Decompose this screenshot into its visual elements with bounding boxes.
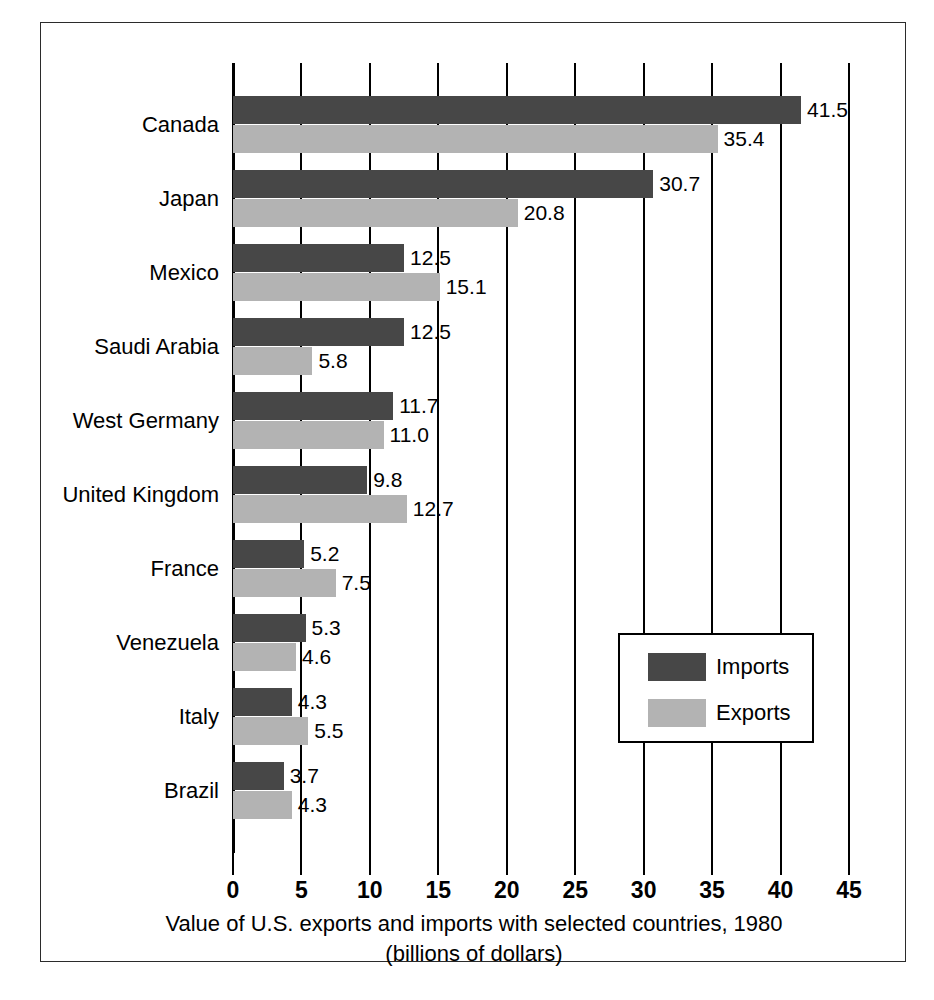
x-tick-label-15: 15 xyxy=(426,877,452,904)
bar-exports xyxy=(233,199,518,227)
bar-value-label: 4.3 xyxy=(292,688,327,716)
category-label-france: France xyxy=(151,540,219,597)
category-label-venezuela: Venezuela xyxy=(116,614,219,671)
x-tick-10 xyxy=(369,853,371,875)
bar-group: 11.711.0 xyxy=(233,392,849,449)
x-tick-label-45: 45 xyxy=(836,877,862,904)
bar-imports xyxy=(233,244,404,272)
bar-value-label: 11.0 xyxy=(384,421,429,449)
bar-imports xyxy=(233,466,367,494)
x-tick-5 xyxy=(300,853,302,875)
bar-imports xyxy=(233,614,306,642)
x-tick-20 xyxy=(506,853,508,875)
x-tick-label-30: 30 xyxy=(631,877,657,904)
caption-line-1: Value of U.S. exports and imports with s… xyxy=(41,909,907,939)
bar-group: 3.74.3 xyxy=(233,762,849,819)
x-tick-label-0: 0 xyxy=(227,877,240,904)
category-label-japan: Japan xyxy=(159,170,219,227)
x-tick-40 xyxy=(780,853,782,875)
legend-label-imports: Imports xyxy=(716,651,789,683)
bar-imports xyxy=(233,392,393,420)
legend-swatch-imports xyxy=(648,653,706,681)
x-tick-15 xyxy=(437,853,439,875)
x-tick-label-5: 5 xyxy=(295,877,308,904)
bar-value-label: 5.5 xyxy=(308,717,343,745)
chart-legend: ImportsExports xyxy=(618,633,814,743)
bar-value-label: 9.8 xyxy=(367,466,402,494)
bar-value-label: 3.7 xyxy=(284,762,319,790)
bar-exports xyxy=(233,273,440,301)
figure-frame: CanadaJapanMexicoSaudi ArabiaWest German… xyxy=(40,22,906,962)
category-label-brazil: Brazil xyxy=(164,762,219,819)
x-tick-35 xyxy=(711,853,713,875)
chart-caption: Value of U.S. exports and imports with s… xyxy=(41,909,907,969)
bar-imports xyxy=(233,540,304,568)
bar-value-label: 4.3 xyxy=(292,791,327,819)
bar-value-label: 12.5 xyxy=(404,318,451,346)
bar-group: 5.27.5 xyxy=(233,540,849,597)
bar-value-label: 7.5 xyxy=(336,569,371,597)
x-tick-label-40: 40 xyxy=(768,877,794,904)
bar-value-label: 5.2 xyxy=(304,540,339,568)
bar-exports xyxy=(233,495,407,523)
category-label-united-kingdom: United Kingdom xyxy=(62,466,219,523)
x-tick-label-10: 10 xyxy=(357,877,383,904)
category-label-saudi-arabia: Saudi Arabia xyxy=(94,318,219,375)
bar-group: 12.515.1 xyxy=(233,244,849,301)
bar-group: 30.720.8 xyxy=(233,170,849,227)
x-tick-30 xyxy=(643,853,645,875)
bar-exports xyxy=(233,347,312,375)
bar-exports xyxy=(233,569,336,597)
x-tick-label-20: 20 xyxy=(494,877,520,904)
bar-value-label: 41.5 xyxy=(801,96,848,124)
legend-swatch-exports xyxy=(648,699,706,727)
bar-group: 12.55.8 xyxy=(233,318,849,375)
x-tick-45 xyxy=(848,853,850,875)
bar-imports xyxy=(233,762,284,790)
bar-group: 9.812.7 xyxy=(233,466,849,523)
legend-label-exports: Exports xyxy=(716,697,791,729)
bar-value-label: 20.8 xyxy=(518,199,565,227)
category-axis-labels: CanadaJapanMexicoSaudi ArabiaWest German… xyxy=(41,63,227,853)
bar-exports xyxy=(233,643,296,671)
bar-imports xyxy=(233,318,404,346)
bar-value-label: 12.7 xyxy=(407,495,454,523)
x-tick-label-35: 35 xyxy=(699,877,725,904)
bar-exports xyxy=(233,717,308,745)
bar-value-label: 30.7 xyxy=(653,170,700,198)
bar-exports xyxy=(233,421,384,449)
bar-exports xyxy=(233,791,292,819)
category-label-west-germany: West Germany xyxy=(73,392,219,449)
category-label-italy: Italy xyxy=(179,688,219,745)
bar-value-label: 11.7 xyxy=(393,392,438,420)
bar-value-label: 12.5 xyxy=(404,244,451,272)
x-tick-0 xyxy=(232,853,234,875)
category-label-mexico: Mexico xyxy=(149,244,219,301)
x-tick-label-25: 25 xyxy=(562,877,588,904)
category-label-canada: Canada xyxy=(142,96,219,153)
bar-imports xyxy=(233,688,292,716)
bar-value-label: 5.8 xyxy=(312,347,347,375)
bar-imports xyxy=(233,96,801,124)
bar-exports xyxy=(233,125,718,153)
caption-line-2: (billions of dollars) xyxy=(41,939,907,969)
bar-value-label: 15.1 xyxy=(440,273,487,301)
bar-group: 41.535.4 xyxy=(233,96,849,153)
x-tick-25 xyxy=(574,853,576,875)
bar-imports xyxy=(233,170,653,198)
bar-value-label: 5.3 xyxy=(306,614,341,642)
bar-value-label: 35.4 xyxy=(718,125,765,153)
bar-value-label: 4.6 xyxy=(296,643,331,671)
